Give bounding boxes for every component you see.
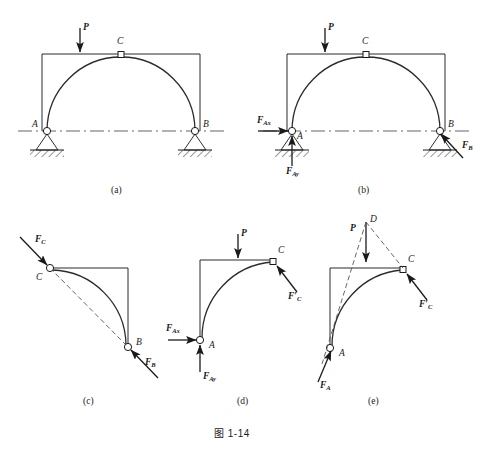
panel-d-force-fay-label: FAy bbox=[203, 372, 216, 382]
panel-b-hinge-c bbox=[363, 52, 369, 58]
panel-d-force-fax-subscript: Ax bbox=[172, 327, 179, 334]
panel-b-point-b-label: B bbox=[448, 120, 454, 130]
panel-b-graphics bbox=[258, 28, 469, 166]
panel-c-point-c-label: C bbox=[36, 273, 42, 283]
panel-c-force-fb-subscript: B bbox=[151, 361, 155, 368]
figure-vector-layer bbox=[0, 0, 490, 451]
panel-c-force-fb-label: FB bbox=[145, 358, 156, 368]
panel-c-force-fc-label: FC bbox=[35, 235, 46, 245]
panel-b-arch-curve bbox=[292, 57, 440, 131]
panel-d-force-fcprime-subscript: C bbox=[297, 295, 301, 302]
panel-a-support-b-triangle bbox=[184, 134, 206, 150]
panel-a-hinge-c bbox=[118, 52, 124, 58]
panel-d-arch-curve bbox=[202, 262, 273, 338]
panel-a-ground-b-hatch bbox=[178, 150, 212, 157]
panel-d-force-fay-subscript: Ay bbox=[209, 375, 215, 382]
panel-b-load-label: P bbox=[328, 23, 334, 33]
panel-d-load-label: P bbox=[241, 229, 247, 239]
panel-b-force-fax-subscript: Ax bbox=[263, 119, 270, 126]
panel-e-dashed-dc bbox=[366, 222, 403, 268]
panel-e-load-label: P bbox=[350, 224, 356, 234]
panel-d-point-a-label: A bbox=[209, 341, 215, 351]
panel-a-arch-curve bbox=[47, 57, 195, 131]
panel-e-force-fcprime-label: F′C bbox=[419, 300, 432, 310]
panel-a-point-a-label: A bbox=[32, 120, 38, 130]
figure-caption: 图 1-14 bbox=[214, 425, 250, 440]
panel-e-point-c-label: C bbox=[408, 255, 414, 265]
panel-d-force-fcprime-label: F′C bbox=[288, 292, 301, 302]
panel-e-force-fa-label: FA bbox=[320, 381, 331, 391]
figure-1-14: P A B C (a) P A B C FAx FAy FB (b) FC C … bbox=[0, 0, 490, 451]
panel-b-force-fay-label: FAy bbox=[286, 167, 299, 177]
panel-b-ground-b-hatch bbox=[423, 150, 457, 157]
panel-c-graphics bbox=[20, 237, 158, 378]
panel-c-pin-b bbox=[124, 343, 131, 350]
panel-e-force-fa-subscript: A bbox=[326, 384, 330, 391]
panel-c-tag: (c) bbox=[83, 396, 94, 406]
panel-a-support-a-triangle bbox=[36, 134, 58, 150]
panel-b-point-c-label: C bbox=[362, 37, 368, 47]
panel-d-tag: (d) bbox=[237, 396, 248, 406]
panel-e-dashed-da bbox=[322, 222, 366, 364]
panel-b-tag: (b) bbox=[358, 185, 369, 195]
panel-a-point-b-label: B bbox=[203, 120, 209, 130]
panel-d-force-fax-label: FAx bbox=[166, 324, 180, 334]
panel-e-force-fcprime-arrow bbox=[407, 274, 427, 300]
panel-d-hinge-c bbox=[270, 259, 276, 265]
panel-a-ground-a-hatch bbox=[30, 150, 64, 157]
panel-b-point-a-label: A bbox=[297, 132, 303, 142]
panel-d-pin-a bbox=[196, 336, 203, 343]
panel-a-graphics bbox=[18, 28, 224, 157]
panel-e-arch-curve bbox=[332, 270, 403, 346]
panel-a-point-c-label: C bbox=[117, 37, 123, 47]
panel-b-force-fb-label: FB bbox=[462, 141, 473, 151]
panel-b-force-fay-subscript: Ay bbox=[292, 170, 298, 177]
panel-c-force-fc-subscript: C bbox=[41, 238, 45, 245]
panel-e-point-d-label: D bbox=[370, 215, 377, 225]
panel-c-pin-c bbox=[46, 264, 53, 271]
panel-c-point-b-label: B bbox=[136, 338, 142, 348]
panel-e-tag: (e) bbox=[368, 396, 379, 406]
panel-d-force-fcprime-arrow bbox=[277, 266, 297, 292]
panel-b-force-fb-subscript: B bbox=[468, 144, 472, 151]
panel-e-force-fcprime-subscript: C bbox=[428, 303, 432, 310]
panel-a-tag: (a) bbox=[111, 185, 122, 195]
panel-b-force-fax-label: FAx bbox=[257, 116, 271, 126]
panel-d-point-c-label: C bbox=[278, 246, 284, 256]
panel-a-load-label: P bbox=[83, 23, 89, 33]
panel-e-point-a-label: A bbox=[339, 349, 345, 359]
panel-e-graphics bbox=[318, 222, 427, 382]
